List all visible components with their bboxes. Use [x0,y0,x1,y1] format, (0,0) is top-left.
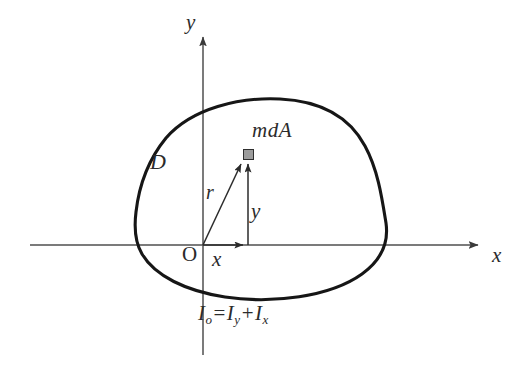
mda-area-element-marker [243,149,254,160]
x-segment-label: x [212,249,221,270]
formula-term1-subscript: y [234,312,240,327]
moment-of-inertia-diagram: y x O D mdA r y x Io=Iy+Ix [0,0,529,368]
x-axis-label: x [492,245,501,266]
radius-vector-r [203,164,241,245]
origin-label: O [182,244,197,265]
formula-lhs: I [198,301,206,325]
formula-lhs-subscript: o [206,312,213,327]
mda-label: mdA [252,120,292,141]
polar-moment-formula: Io=Iy+Ix [198,303,269,326]
y-axis-label: y [186,12,195,33]
y-segment-label: y [251,201,260,222]
formula-equals: = [213,301,227,325]
formula-plus: + [241,301,255,325]
radius-label: r [206,182,214,202]
region-d-label: D [150,151,166,173]
formula-term2-subscript: x [262,312,268,327]
